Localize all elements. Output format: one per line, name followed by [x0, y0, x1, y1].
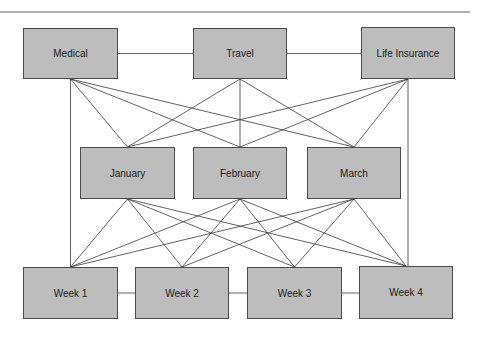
node-week-1: Week 1	[23, 267, 118, 319]
edge-medical-january	[71, 79, 128, 147]
node-medical: Medical	[23, 28, 118, 79]
node-label: Medical	[53, 48, 87, 59]
edge-march-week4	[354, 199, 406, 266]
edge-life-february	[240, 79, 408, 147]
edge-medical-march	[71, 79, 355, 147]
edge-travel-january	[128, 79, 241, 147]
edge-march-week1	[71, 199, 355, 267]
node-label: January	[110, 168, 146, 179]
node-label: Week 2	[165, 288, 199, 299]
node-week-2: Week 2	[135, 267, 229, 319]
diagram-canvas: Medical Travel Life Insurance January Fe…	[0, 0, 480, 338]
edge-medical-february	[71, 79, 241, 147]
edge-february-week4	[240, 199, 406, 266]
node-travel: Travel	[193, 28, 287, 79]
edge-travel-march	[240, 79, 354, 147]
node-label: Week 1	[54, 288, 88, 299]
edge-life-march	[354, 79, 408, 147]
node-march: March	[307, 147, 401, 199]
node-week-3: Week 3	[247, 267, 342, 319]
node-label: Travel	[226, 48, 253, 59]
edge-february-week1	[71, 199, 241, 267]
node-life-insurance: Life Insurance	[361, 27, 455, 79]
node-label: Week 3	[278, 288, 312, 299]
node-label: March	[340, 168, 368, 179]
node-label: February	[220, 168, 260, 179]
edge-january-week1	[71, 199, 128, 267]
edge-life-january	[128, 79, 409, 147]
node-january: January	[80, 147, 175, 199]
node-label: Week 4	[389, 287, 423, 298]
edge-march-week2	[182, 199, 354, 267]
node-february: February	[193, 147, 287, 199]
node-week-4: Week 4	[359, 266, 453, 319]
node-label: Life Insurance	[377, 48, 440, 59]
edge-march-week3	[295, 199, 355, 267]
